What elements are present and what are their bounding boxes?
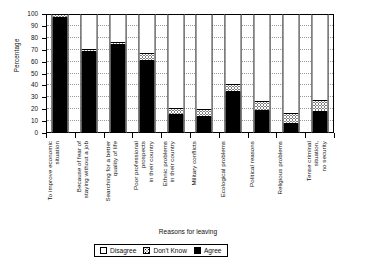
- x-axis-tick-mark: [219, 133, 220, 138]
- y-axis-tick-label: 10: [0, 117, 38, 124]
- stacked-bar-chart: Percentage 0102030405060708090100 To imp…: [0, 0, 376, 271]
- chart-legend: DisagreeDon't KnowAgree: [94, 244, 228, 257]
- bar-segment-dont-know: [283, 113, 298, 124]
- bar-segment-agree: [226, 92, 241, 132]
- bar-segment-dont-know: [197, 109, 212, 116]
- bar-slot: [161, 14, 190, 133]
- bar-slot: [75, 14, 104, 133]
- legend-label: Disagree: [110, 247, 136, 254]
- bar-slot: [248, 14, 277, 133]
- x-axis-tick-mark: [75, 133, 76, 138]
- y-axis-tick-label: 70: [0, 46, 38, 53]
- stacked-bar[interactable]: [225, 14, 242, 133]
- bar-segment-agree: [82, 52, 97, 132]
- bar-segment-disagree: [110, 15, 125, 42]
- agree-swatch: [194, 247, 201, 254]
- bar-segment-agree: [110, 45, 125, 132]
- bar-segment-disagree: [82, 15, 97, 49]
- x-axis-tick-mark: [132, 133, 133, 138]
- x-axis-tick-mark: [190, 133, 191, 138]
- bar-slot: [276, 14, 305, 133]
- bar-segment-dont-know: [312, 100, 327, 112]
- y-axis-tick-label: 100: [0, 10, 38, 17]
- bar-slot: [219, 14, 248, 133]
- x-axis-category-label: Searching for a better quality of life: [104, 141, 133, 225]
- stacked-bar[interactable]: [253, 14, 270, 133]
- bar-segment-dont-know: [168, 108, 183, 115]
- bar-segment-agree: [283, 124, 298, 132]
- legend-item: Don't Know: [143, 247, 187, 254]
- bar-segment-agree: [168, 115, 183, 132]
- bar-slot: [104, 14, 133, 133]
- y-axis-tick-label: 30: [0, 94, 38, 101]
- bar-slot: [190, 14, 219, 133]
- disagree-swatch: [100, 247, 107, 254]
- y-axis-tick-label: 40: [0, 82, 38, 89]
- x-axis-tick-mark: [248, 133, 249, 138]
- bar-slot: [132, 14, 161, 133]
- bar-segment-disagree: [168, 15, 183, 108]
- stacked-bar[interactable]: [81, 14, 98, 133]
- bar-segment-agree: [53, 18, 68, 132]
- x-axis-category-label: To improve economic situation: [46, 141, 75, 225]
- stacked-bar[interactable]: [52, 14, 69, 133]
- bar-segment-agree: [139, 61, 154, 132]
- stacked-bar[interactable]: [109, 14, 126, 133]
- stacked-bar[interactable]: [196, 14, 213, 133]
- x-axis-category-label: Tense criminal situation, no security: [305, 141, 334, 225]
- x-axis-tick-mark: [276, 133, 277, 138]
- y-axis-tick-label: 20: [0, 106, 38, 113]
- x-axis-category-label: Poor professional prospects in their cou…: [132, 141, 161, 225]
- x-axis-tick-mark: [334, 133, 335, 138]
- y-axis-tick-label: 80: [0, 34, 38, 41]
- legend-item: Disagree: [100, 247, 136, 254]
- x-axis-category-label: Ecological problems: [219, 141, 248, 225]
- bar-slot: [305, 14, 334, 133]
- stacked-bar[interactable]: [138, 14, 155, 133]
- bar-segment-agree: [197, 117, 212, 132]
- bar-segment-disagree: [312, 15, 327, 100]
- x-axis-category-label: Religious problems: [276, 141, 305, 225]
- x-axis-title: Reasons for leaving: [0, 228, 376, 235]
- legend-label: Agree: [204, 247, 222, 254]
- bar-segment-disagree: [283, 15, 298, 113]
- y-axis-title: Percentage: [13, 21, 20, 91]
- x-axis-category-label: Political reasons: [248, 141, 277, 225]
- bar-segment-disagree: [139, 15, 154, 53]
- stacked-bar[interactable]: [311, 14, 328, 133]
- legend-label: Don't Know: [153, 247, 187, 254]
- stacked-bar[interactable]: [167, 14, 184, 133]
- x-axis-category-label: Because of fear of staying without a job: [75, 141, 104, 225]
- bar-slot: [46, 14, 75, 133]
- bar-segment-dont-know: [254, 101, 269, 111]
- bar-segment-disagree: [226, 15, 241, 84]
- bar-segment-agree: [254, 111, 269, 132]
- legend-item: Agree: [194, 247, 222, 254]
- x-axis-tick-mark: [46, 133, 47, 138]
- y-axis-tick-label: 0: [0, 129, 38, 136]
- bar-segment-disagree: [197, 15, 212, 109]
- y-axis-tick-label: 60: [0, 58, 38, 65]
- x-axis-category-label: Military conflicts: [190, 141, 219, 225]
- bars-container: [46, 14, 334, 133]
- y-axis-tick-label: 90: [0, 22, 38, 29]
- y-axis-tick-label: 50: [0, 70, 38, 77]
- bar-segment-agree: [312, 112, 327, 132]
- bar-segment-dont-know: [139, 53, 154, 60]
- x-axis-tick-mark: [104, 133, 105, 138]
- bar-segment-dont-know: [226, 84, 241, 91]
- x-axis-category-label: Ethnic problems in their country: [161, 141, 190, 225]
- x-axis-tick-mark: [305, 133, 306, 138]
- x-axis-tick-mark: [161, 133, 162, 138]
- x-axis-category-labels: To improve economic situationBecause of …: [46, 141, 334, 225]
- bar-segment-disagree: [254, 15, 269, 101]
- dont-know-swatch: [143, 247, 150, 254]
- stacked-bar[interactable]: [282, 14, 299, 133]
